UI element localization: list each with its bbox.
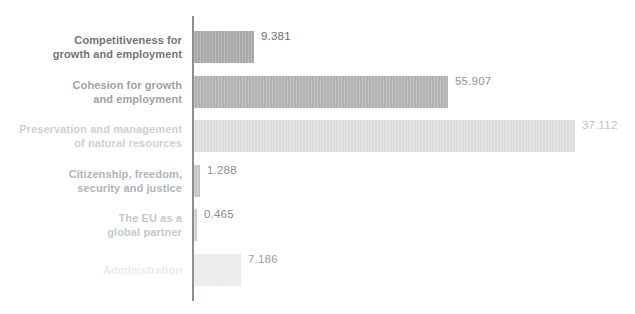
category-label: Competitiveness for growth and employmen… (0, 33, 182, 61)
value-label: 37.112 (582, 118, 618, 132)
chart-row-administration: Administration 7.186 (0, 254, 635, 286)
chart-row-citizenship: Citizenship, freedom, security and justi… (0, 165, 635, 197)
category-label-line1: The EU as a (0, 211, 182, 225)
category-label: Preservation and management of natural r… (0, 122, 182, 150)
category-label-line1: Preservation and management (0, 122, 182, 136)
category-label-line1: Citizenship, freedom, (0, 167, 182, 181)
value-label: 7.186 (248, 252, 278, 266)
category-label: The EU as a global partner (0, 211, 182, 239)
chart-row-competitiveness: Competitiveness for growth and employmen… (0, 31, 635, 63)
value-label: 9.381 (261, 29, 291, 43)
category-label: Cohesion for growth and employment (0, 78, 182, 106)
category-label-line1: Competitiveness for (0, 33, 182, 47)
category-label: Administration (0, 263, 182, 277)
bar (194, 254, 241, 286)
chart-row-preservation: Preservation and management of natural r… (0, 120, 635, 152)
category-label-line2: and employment (0, 92, 182, 106)
bar (194, 165, 200, 197)
value-label: 1.288 (207, 163, 237, 177)
bar (194, 209, 197, 241)
category-label-line1: Cohesion for growth (0, 78, 182, 92)
category-label-line2: of natural resources (0, 136, 182, 150)
category-label-line2: growth and employment (0, 47, 182, 61)
category-label-line2: global partner (0, 225, 182, 239)
category-label-line1: Administration (0, 263, 182, 277)
bar (194, 76, 448, 108)
value-label: 55.907 (455, 74, 491, 88)
chart-rows: Competitiveness for growth and employmen… (0, 31, 635, 286)
chart-row-cohesion: Cohesion for growth and employment 55.90… (0, 76, 635, 108)
bar (194, 120, 575, 152)
bar (194, 31, 254, 63)
chart-row-eu-global-partner: The EU as a global partner 0.465 (0, 209, 635, 241)
category-label: Citizenship, freedom, security and justi… (0, 167, 182, 195)
category-label-line2: security and justice (0, 181, 182, 195)
value-label: 0.465 (204, 207, 234, 221)
bar-chart: Competitiveness for growth and employmen… (0, 0, 635, 314)
